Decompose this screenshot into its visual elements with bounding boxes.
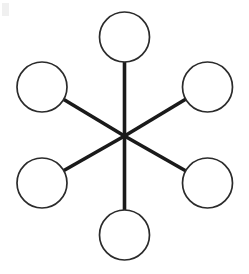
edge-layer <box>63 62 186 210</box>
node-bottom-shape[interactable] <box>100 210 150 260</box>
corner-smudge <box>2 3 9 16</box>
edge-hub-upper-left <box>63 99 125 136</box>
node-lower-right-shape[interactable] <box>183 158 233 208</box>
diagram-canvas <box>0 0 249 274</box>
node-top-shape[interactable] <box>100 12 150 62</box>
node-upper-left[interactable] <box>17 62 67 112</box>
node-lower-right[interactable] <box>183 158 233 208</box>
edge-hub-lower-left <box>63 136 125 171</box>
node-lower-left[interactable] <box>17 158 67 208</box>
edge-hub-upper-right <box>125 99 187 136</box>
edge-hub-lower-right <box>125 136 187 171</box>
node-upper-left-shape[interactable] <box>17 62 67 112</box>
node-bottom[interactable] <box>100 210 150 260</box>
node-top[interactable] <box>100 12 150 62</box>
node-upper-right[interactable] <box>183 62 233 112</box>
node-upper-right-shape[interactable] <box>183 62 233 112</box>
artifact-layer <box>2 3 9 16</box>
node-lower-left-shape[interactable] <box>17 158 67 208</box>
diagram-svg <box>0 0 249 274</box>
